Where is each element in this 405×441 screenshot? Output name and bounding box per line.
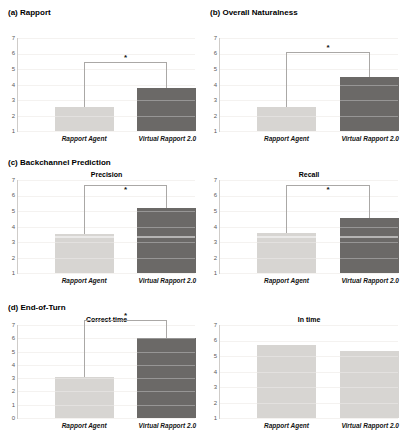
gridline-overlay [18,325,195,326]
section-title [208,301,399,314]
x-axis-labels: Rapport AgentVirtual Rapport 2.0 [219,419,399,433]
gridline-overlay [18,405,195,406]
chart-title: In time [219,314,399,325]
x-category-label: Virtual Rapport 2.0 [139,277,197,284]
gridline-overlay [220,180,398,181]
x-category-label: Virtual Rapport 2.0 [139,422,197,429]
reference-line [18,236,195,238]
y-tick-label: 2 [6,113,15,119]
sig-bracket-leg [369,52,370,77]
y-tick-label: 6 [208,192,217,198]
x-axis-labels: Rapport AgentVirtual Rapport 2.0 [219,132,399,146]
y-tick-label: 7 [6,322,15,328]
y-tick-label: 3 [208,239,217,245]
sig-asterisk: * [84,185,166,194]
y-tick-label: 3 [6,97,15,103]
sig-asterisk: * [84,311,166,320]
y-tick-label: 1 [6,270,15,276]
bar-rapport-agent [257,107,316,131]
gridline-overlay [18,242,195,243]
y-tick-label: 2 [208,400,217,406]
bar-virtual-rapport-2-0 [137,208,195,273]
plot-area: 7654321 [219,325,398,419]
y-tick-label: 5 [208,66,217,72]
x-category-label: Virtual Rapport 2.0 [341,422,399,429]
bar-rapport-agent [55,377,113,418]
chart-endofturn-in-time: In time 7654321 Rapport AgentVirtual Rap… [202,295,405,441]
gridline-overlay [18,418,195,419]
gridline-overlay [220,418,398,419]
gridline-overlay [220,211,398,212]
sig-bracket-line [287,52,370,53]
bar-virtual-rapport-2-0 [340,351,399,418]
gridline-overlay [18,131,195,132]
gridline-overlay [18,85,195,86]
plot-area: 7654321* [219,38,398,132]
plot-area: 7654321* [17,180,195,274]
bar-virtual-rapport-2-0 [137,88,195,131]
x-category-label: Rapport Agent [62,135,107,142]
x-category-label: Rapport Agent [264,277,309,284]
bar-rapport-agent [55,234,113,273]
y-tick-label: 4 [208,369,217,375]
chart-backchannel-recall: Recall 7654321* Rapport AgentVirtual Rap… [202,150,405,295]
y-tick-label: 2 [6,255,15,261]
gridline-overlay [18,180,195,181]
gridline-overlay [220,196,398,197]
y-tick-label: 3 [6,375,15,381]
gridline-overlay [220,100,398,101]
y-tick-label: 3 [6,239,15,245]
chart-title: Precision [17,169,196,180]
y-tick-label: 5 [6,66,15,72]
section-title: (b) Overall Naturalness [208,6,399,19]
gridline-overlay [220,116,398,117]
reference-line [220,236,398,238]
chart-backchannel-precision: (c) Backchannel Prediction Precision 765… [0,150,202,295]
y-tick-label: 3 [208,384,217,390]
x-axis-labels: Rapport AgentVirtual Rapport 2.0 [17,274,196,288]
bar-rapport-agent [55,107,113,131]
y-tick-label: 2 [6,388,15,394]
x-category-label: Virtual Rapport 2.0 [341,135,399,142]
y-tick-label: 6 [6,50,15,56]
x-axis-labels: Rapport AgentVirtual Rapport 2.0 [17,132,196,146]
y-tick-label: 4 [6,82,15,88]
x-category-label: Rapport Agent [62,277,107,284]
sig-bracket-leg [84,320,85,377]
gridline-overlay [18,116,195,117]
y-tick-label: 6 [208,337,217,343]
gridline-overlay [18,258,195,259]
y-tick-label: 0 [6,415,15,421]
gridline-overlay [220,372,398,373]
x-category-label: Virtual Rapport 2.0 [341,277,399,284]
chart-title [219,19,399,30]
y-tick-label: 2 [208,113,217,119]
plot-area: 7654321* [17,38,195,132]
y-tick-label: 2 [208,255,217,261]
y-tick-label: 4 [6,362,15,368]
y-tick-label: 6 [208,50,217,56]
gridline-overlay [220,387,398,388]
gridline-overlay [220,227,398,228]
sig-asterisk: * [287,185,370,194]
gridline-overlay [220,341,398,342]
gridline-overlay [18,69,195,70]
y-tick-label: 7 [208,322,217,328]
gridline-overlay [220,85,398,86]
gridline-overlay [220,403,398,404]
gridline-overlay [18,338,195,339]
gridline-overlay [18,352,195,353]
section-title: (c) Backchannel Prediction [6,156,196,169]
gridline-overlay [18,365,195,366]
y-tick-label: 5 [6,349,15,355]
y-tick-label: 1 [6,128,15,134]
sig-bracket-line [84,320,166,321]
chart-title [17,19,196,30]
sig-bracket-leg [166,62,167,88]
x-axis-labels: Rapport AgentVirtual Rapport 2.0 [219,274,399,288]
sig-bracket-leg [84,62,85,107]
chart-rapport: (a) Rapport 7654321* Rapport AgentVirtua… [0,0,202,150]
sig-asterisk: * [287,43,370,52]
y-tick-label: 3 [208,97,217,103]
x-category-label: Rapport Agent [264,422,309,429]
